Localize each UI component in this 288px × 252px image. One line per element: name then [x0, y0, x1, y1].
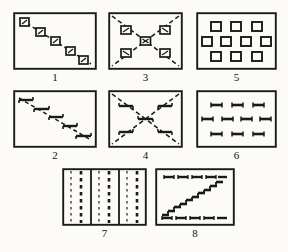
panel-5: [196, 12, 277, 70]
panel-2: [13, 90, 97, 148]
panel-4-graphic: [108, 90, 183, 148]
panel-8-graphic: [155, 168, 235, 226]
panel-7-label: 7: [62, 227, 147, 239]
panel-3-label: 3: [108, 71, 183, 83]
panel-6-label: 6: [196, 149, 277, 161]
panel-3: [108, 12, 183, 70]
panel-7-graphic: [62, 168, 147, 226]
panel-6: [196, 90, 277, 148]
panel-2-graphic: [13, 90, 97, 148]
panel-5-graphic: [196, 12, 277, 70]
panel-8-label: 8: [155, 227, 235, 239]
panel-4: [108, 90, 183, 148]
panel-1: [13, 12, 97, 70]
panel-1-label: 1: [13, 71, 97, 83]
panel-3-graphic: [108, 12, 183, 70]
panel-2-label: 2: [13, 149, 97, 161]
panel-8: [155, 168, 235, 226]
panel-6-graphic: [196, 90, 277, 148]
panel-7: [62, 168, 147, 226]
panel-1-graphic: [13, 12, 97, 70]
panel-4-label: 4: [108, 149, 183, 161]
figure-root: 1 3: [0, 0, 288, 252]
panel-5-label: 5: [196, 71, 277, 83]
